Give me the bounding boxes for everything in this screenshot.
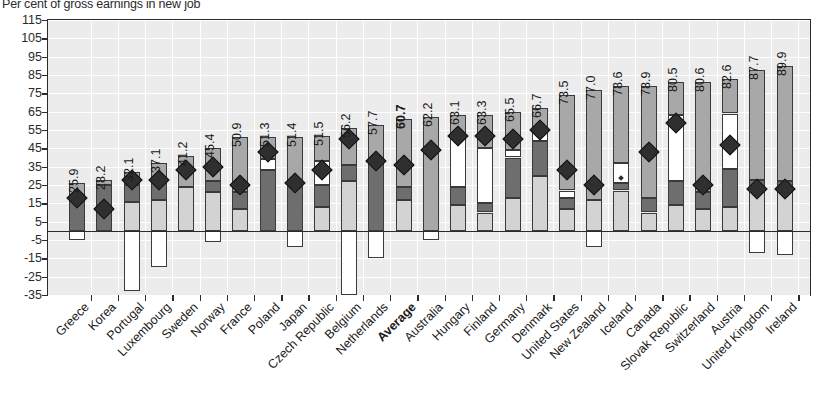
bar-group[interactable]: 78.6	[613, 20, 629, 295]
bar-segment	[314, 185, 330, 207]
bar-group[interactable]: 80.6	[695, 20, 711, 295]
x-axis-labels: GreeceKoreaPortugalLuxembourgSwedenNorwa…	[0, 298, 819, 398]
bar-group[interactable]: 65.5	[505, 20, 521, 295]
bar-group[interactable]: 45.4	[205, 20, 221, 295]
y-axis-tick-label: 105	[21, 31, 42, 45]
bar-value-label: 51.3	[258, 123, 272, 147]
bar-segment	[532, 176, 548, 231]
bar-value-label: 50.9	[230, 123, 244, 147]
bar-segment	[232, 209, 248, 231]
bar-segment	[505, 150, 521, 157]
y-axis-tick-label: 95	[28, 50, 42, 64]
bar-segment	[450, 187, 466, 205]
bar-value-label: 62.2	[421, 103, 435, 127]
chart-page: Per cent of gross earnings in new job 11…	[0, 0, 819, 416]
bar-segment	[613, 86, 629, 163]
bar-group[interactable]: 57.7	[368, 20, 384, 295]
gridline-vertical	[363, 20, 364, 295]
bar-group[interactable]: 60.7	[396, 20, 412, 295]
y-axis-tick-label: 15	[28, 196, 42, 210]
y-axis-tick-label: 5	[35, 215, 42, 229]
bar-group[interactable]: 89.9	[777, 20, 793, 295]
bar-value-label: 28.2	[94, 165, 108, 189]
bar-value-label: 51.5	[312, 121, 326, 145]
bar-segment-negative	[151, 231, 167, 268]
bar-group[interactable]: 51.4	[287, 20, 303, 295]
gridline-vertical	[308, 20, 309, 295]
bar-group[interactable]: 62.2	[423, 20, 439, 295]
bar-segment	[368, 163, 384, 231]
gridline-vertical	[172, 20, 173, 295]
bar-group[interactable]: 50.9	[232, 20, 248, 295]
gridline-vertical	[200, 20, 201, 295]
bar-group[interactable]: 41.2	[178, 20, 194, 295]
bar-group[interactable]: 87.7	[749, 20, 765, 295]
gridline-vertical	[526, 20, 527, 295]
bar-value-label: 77.0	[584, 75, 598, 99]
bar-group[interactable]: 32.1	[124, 20, 140, 295]
y-axis-tick-label: 45	[28, 141, 42, 155]
bar-group[interactable]: 73.5	[559, 20, 575, 295]
bar-value-label: 80.5	[666, 68, 680, 92]
bar-group[interactable]: 80.5	[668, 20, 684, 295]
bar-segment	[722, 207, 738, 231]
bar-value-label: 60.7	[394, 105, 408, 129]
bar-segment	[396, 119, 412, 187]
y-axis-tick-label: 115	[22, 13, 42, 27]
bar-segment	[749, 70, 765, 180]
bar-segment	[396, 200, 412, 231]
bar-group[interactable]: 82.6	[722, 20, 738, 295]
gridline-vertical	[717, 20, 718, 295]
gridline-vertical	[581, 20, 582, 295]
y-axis-tick-label: -15	[24, 251, 42, 265]
bar-value-label: 65.5	[503, 97, 517, 121]
gridline-horizontal	[48, 295, 810, 296]
bar-segment-negative	[287, 231, 303, 248]
gridline-vertical	[744, 20, 745, 295]
bar-segment-negative	[205, 231, 221, 242]
gridline-vertical	[798, 20, 799, 295]
gridline-vertical	[771, 20, 772, 295]
bar-value-label: 78.6	[611, 72, 625, 96]
y-axis-tick-label: 75	[28, 86, 42, 100]
gridline-vertical	[553, 20, 554, 295]
bar-value-label: 51.4	[285, 123, 299, 147]
page-title: Per cent of gross earnings in new job	[2, 0, 200, 11]
y-axis-tick-label: 55	[28, 123, 42, 137]
bar-segment	[423, 117, 439, 231]
bar-group[interactable]: 56.2	[341, 20, 357, 295]
bar-value-label: 63.3	[475, 101, 489, 125]
bar-value-label: 56.2	[339, 114, 353, 138]
zero-axis-line	[48, 231, 810, 232]
bar-segment	[613, 183, 629, 190]
bar-group[interactable]: 37.1	[151, 20, 167, 295]
bar-segment-negative	[368, 231, 384, 259]
bar-segment-negative	[124, 231, 140, 292]
bar-group[interactable]: 78.9	[641, 20, 657, 295]
bar-segment	[477, 148, 493, 203]
bar-segment	[668, 205, 684, 231]
bar-segment-negative	[749, 231, 765, 253]
bar-group[interactable]: 28.2	[96, 20, 112, 295]
bar-segment	[341, 181, 357, 231]
bar-group[interactable]: 51.3	[260, 20, 276, 295]
bar-segment	[205, 181, 221, 192]
bar-value-label: 25.9	[67, 169, 81, 193]
bar-group[interactable]: 63.1	[450, 20, 466, 295]
bar-segment	[722, 169, 738, 208]
bar-group[interactable]: 25.9	[69, 20, 85, 295]
bar-segment	[505, 198, 521, 231]
bar-group[interactable]: 63.3	[477, 20, 493, 295]
y-axis-tick-label: 85	[28, 68, 42, 82]
gridline-vertical	[118, 20, 119, 295]
bar-value-label: 82.6	[720, 64, 734, 88]
gridline-vertical	[254, 20, 255, 295]
gridline-vertical	[417, 20, 418, 295]
bar-segment	[532, 141, 548, 176]
bar-group[interactable]: 51.5	[314, 20, 330, 295]
bar-group[interactable]: 66.7	[532, 20, 548, 295]
bar-value-label: 87.7	[747, 55, 761, 79]
bar-segment	[586, 200, 602, 231]
bar-group[interactable]: 77.0	[586, 20, 602, 295]
x-axis-tick-label: Greece	[53, 300, 92, 339]
